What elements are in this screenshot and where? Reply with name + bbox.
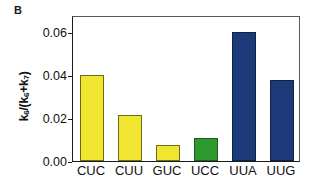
panel-label: B bbox=[14, 5, 22, 16]
y-axis-tick-labels: 0.000.020.040.06 bbox=[31, 0, 67, 195]
y-axis-k-main: k bbox=[17, 114, 31, 120]
bar-series bbox=[73, 17, 299, 161]
bar-uug bbox=[270, 80, 294, 161]
y-axis-plus: + bbox=[17, 86, 31, 93]
bar-cuu bbox=[118, 115, 142, 161]
y-axis-close-paren: ) bbox=[17, 71, 31, 75]
bar-cuc bbox=[80, 75, 104, 161]
y-axis-title-text: k6/(k6+k7) bbox=[17, 71, 32, 121]
y-axis-slash-open: /( bbox=[17, 103, 31, 110]
bar-guc bbox=[156, 145, 180, 161]
y-axis-k-b: k bbox=[17, 97, 31, 103]
x-tick-label-cuu: CUU bbox=[110, 164, 148, 178]
y-tick-label: 0.06 bbox=[31, 27, 67, 40]
x-axis-tick-labels: CUCCUUGUCUCCUUAUUG bbox=[72, 164, 300, 188]
bar-ucc bbox=[194, 138, 218, 161]
x-tick-label-guc: GUC bbox=[148, 164, 186, 178]
x-tick-label-uua: UUA bbox=[224, 164, 262, 178]
plot-area bbox=[72, 16, 300, 162]
figure-panel-b: B k6/(k6+k7) 0.000.020.040.06 CUCCUUGUCU… bbox=[0, 0, 320, 195]
x-tick-label-cuc: CUC bbox=[72, 164, 110, 178]
y-tick-label: 0.04 bbox=[31, 70, 67, 83]
x-tick-label-ucc: UCC bbox=[186, 164, 224, 178]
x-tick-label-uug: UUG bbox=[262, 164, 300, 178]
y-tick-mark bbox=[68, 162, 72, 163]
y-tick-label: 0.02 bbox=[31, 113, 67, 126]
y-axis-k-c: k bbox=[17, 79, 31, 85]
y-tick-label: 0.00 bbox=[31, 156, 67, 169]
bar-uua bbox=[232, 32, 256, 161]
